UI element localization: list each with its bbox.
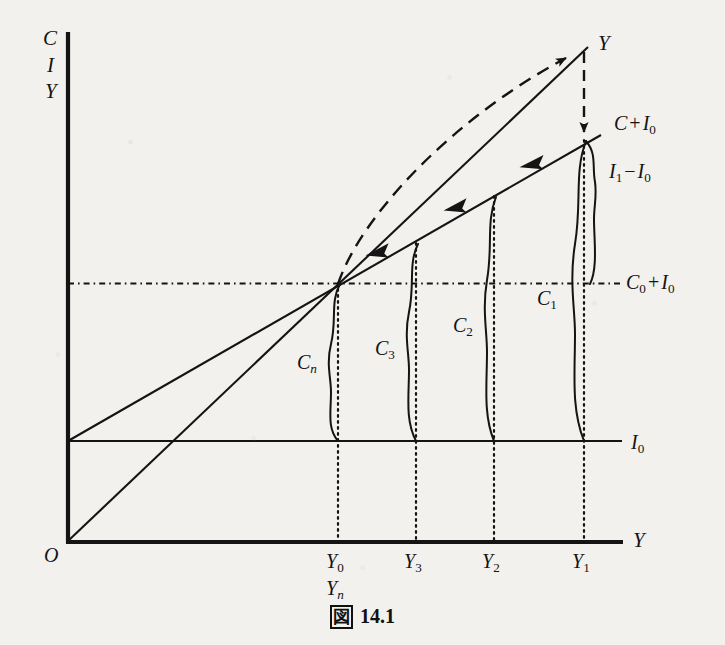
y1-base: Y bbox=[572, 550, 583, 572]
minus-operator: − bbox=[622, 160, 637, 182]
cn-subscript: n bbox=[310, 361, 317, 376]
c0-subscript: 0 bbox=[639, 281, 646, 296]
y2-subscript: 2 bbox=[493, 560, 500, 575]
c-plus-i0-line bbox=[68, 135, 601, 441]
i1-minus-i0-label: I1−I0 bbox=[609, 161, 651, 184]
c3-base: C bbox=[375, 337, 388, 359]
bracket-label-c2: C2 bbox=[453, 315, 473, 338]
bracket-label-cn: Cn bbox=[297, 352, 317, 375]
c-plus-i0-base: C bbox=[614, 112, 627, 134]
y-line-label: Y bbox=[598, 33, 610, 54]
yn-subscript: n bbox=[337, 587, 344, 602]
i0-term-2: I bbox=[661, 271, 668, 293]
c3-subscript: 3 bbox=[388, 347, 395, 362]
i0-line-label: I0 bbox=[631, 432, 644, 455]
figure-page: C I Y O Y C+I0 I1−I0 C0+I0 I0 Y Cn C3 C2… bbox=[0, 0, 725, 645]
y-axis-label-c: C bbox=[43, 28, 57, 49]
x-axis-label: Y bbox=[633, 530, 645, 551]
y-axis-label-i: I bbox=[47, 55, 54, 76]
i-subscript: 0 bbox=[649, 122, 656, 137]
c0-plus-i0-label: C0+I0 bbox=[626, 272, 674, 295]
x-tick-label-y1: Y1 bbox=[572, 551, 590, 574]
arrowhead-toward-y1 bbox=[520, 155, 544, 169]
figure-caption: 図14.1 bbox=[0, 604, 725, 628]
i0-subscript: 0 bbox=[644, 170, 651, 185]
c2-base: C bbox=[453, 314, 466, 336]
y-axis-label-y: Y bbox=[45, 81, 57, 102]
convergence-arrow-group bbox=[366, 155, 544, 258]
arrowhead-toward-y2 bbox=[444, 198, 467, 212]
c-plus-i0-label: C+I0 bbox=[614, 113, 656, 136]
dashed-expansion-arc bbox=[338, 58, 566, 284]
x-tick-label-y2: Y2 bbox=[482, 551, 500, 574]
y1-subscript: 1 bbox=[583, 560, 590, 575]
i0-subscript-2: 0 bbox=[668, 281, 675, 296]
y2-base: Y bbox=[482, 550, 493, 572]
brace-i1-minus-i0 bbox=[586, 141, 596, 284]
i1-term: I bbox=[609, 160, 616, 182]
yn-base: Y bbox=[326, 577, 337, 599]
i0-base-subscript: 0 bbox=[638, 441, 645, 456]
y-45-degree-line bbox=[68, 47, 588, 541]
y0-subscript: 0 bbox=[337, 560, 344, 575]
y3-subscript: 3 bbox=[415, 560, 422, 575]
y3-base: Y bbox=[404, 550, 415, 572]
multiplier-diagram bbox=[0, 0, 725, 645]
plus-operator: + bbox=[627, 112, 642, 134]
c1-subscript: 1 bbox=[550, 297, 557, 312]
c2-subscript: 2 bbox=[466, 324, 473, 339]
x-tick-label-y3: Y3 bbox=[404, 551, 422, 574]
i0-base: I bbox=[631, 431, 638, 453]
x-tick-label-y0: Y0 bbox=[326, 551, 344, 574]
caption-symbol: 図 bbox=[330, 605, 353, 629]
c0-term: C bbox=[626, 271, 639, 293]
bracket-label-c3: C3 bbox=[375, 338, 395, 361]
caption-number: 14.1 bbox=[360, 605, 395, 627]
origin-label: O bbox=[44, 545, 58, 565]
arrowhead-toward-y3 bbox=[366, 243, 389, 257]
y0-base: Y bbox=[326, 550, 337, 572]
bracket-label-c1: C1 bbox=[537, 288, 557, 311]
plus-operator-2: + bbox=[646, 271, 661, 293]
cn-base: C bbox=[297, 351, 310, 373]
c1-base: C bbox=[537, 287, 550, 309]
x-tick-label-yn: Yn bbox=[326, 578, 344, 601]
